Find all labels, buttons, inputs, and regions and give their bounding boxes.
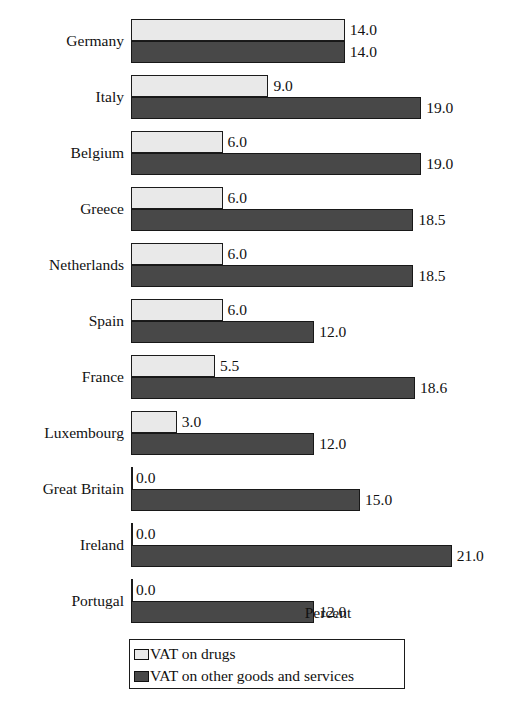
bar-belgium-vat-on-other-goods-and-services — [131, 153, 421, 175]
value-label-italy-vat-on-other-goods-and-services: 19.0 — [426, 97, 453, 119]
value-label-portugal-vat-on-drugs: 0.0 — [136, 579, 155, 601]
bar-group-belgium: Belgium6.019.0 — [0, 131, 528, 175]
category-label-portugal: Portugal — [0, 593, 124, 609]
bar-germany-vat-on-drugs — [131, 19, 345, 41]
bar-france-vat-on-drugs — [131, 355, 215, 377]
bar-group-greece: Greece6.018.5 — [0, 187, 528, 231]
value-label-greece-vat-on-drugs: 6.0 — [228, 187, 247, 209]
bar-france-vat-on-other-goods-and-services — [131, 377, 415, 399]
legend-label-vat-on-other-goods-and-services: VAT on other goods and services — [150, 668, 354, 684]
category-label-belgium: Belgium — [0, 145, 124, 161]
value-label-luxembourg-vat-on-other-goods-and-services: 12.0 — [319, 433, 346, 455]
value-label-belgium-vat-on-other-goods-and-services: 19.0 — [426, 153, 453, 175]
value-label-spain-vat-on-drugs: 6.0 — [228, 299, 247, 321]
category-label-germany: Germany — [0, 33, 124, 49]
bar-germany-vat-on-other-goods-and-services — [131, 41, 345, 63]
bar-belgium-vat-on-drugs — [131, 131, 223, 153]
value-label-france-vat-on-drugs: 5.5 — [220, 355, 239, 377]
bar-greece-vat-on-other-goods-and-services — [131, 209, 413, 231]
x-axis-title: Percent — [268, 604, 388, 622]
value-label-germany-vat-on-other-goods-and-services: 14.0 — [350, 41, 377, 63]
bar-italy-vat-on-other-goods-and-services — [131, 97, 421, 119]
legend-item-vat-on-drugs: VAT on drugs — [134, 643, 404, 665]
bar-italy-vat-on-drugs — [131, 75, 268, 97]
value-label-great-britain-vat-on-drugs: 0.0 — [136, 467, 155, 489]
vat-bar-chart: Germany14.014.0Italy9.019.0Belgium6.019.… — [0, 0, 528, 724]
bar-group-italy: Italy9.019.0 — [0, 75, 528, 119]
value-label-france-vat-on-other-goods-and-services: 18.6 — [420, 377, 447, 399]
value-label-ireland-vat-on-other-goods-and-services: 21.0 — [457, 545, 484, 567]
bar-netherlands-vat-on-other-goods-and-services — [131, 265, 413, 287]
bar-group-spain: Spain6.012.0 — [0, 299, 528, 343]
value-label-germany-vat-on-drugs: 14.0 — [350, 19, 377, 41]
value-label-great-britain-vat-on-other-goods-and-services: 15.0 — [365, 489, 392, 511]
category-label-italy: Italy — [0, 89, 124, 105]
value-label-italy-vat-on-drugs: 9.0 — [273, 75, 292, 97]
category-label-luxembourg: Luxembourg — [0, 425, 124, 441]
legend-label-vat-on-drugs: VAT on drugs — [150, 646, 236, 662]
value-label-spain-vat-on-other-goods-and-services: 12.0 — [319, 321, 346, 343]
bar-group-netherlands: Netherlands6.018.5 — [0, 243, 528, 287]
bar-spain-vat-on-other-goods-and-services — [131, 321, 314, 343]
bar-group-great-britain: Great Britain0.015.0 — [0, 467, 528, 511]
value-label-luxembourg-vat-on-drugs: 3.0 — [182, 411, 201, 433]
category-label-france: France — [0, 369, 124, 385]
chart-legend: VAT on drugs VAT on other goods and serv… — [129, 639, 405, 689]
legend-item-vat-on-other-goods-and-services: VAT on other goods and services — [134, 665, 404, 687]
plot-area: Germany14.014.0Italy9.019.0Belgium6.019.… — [0, 0, 528, 600]
bar-great-britain-vat-on-other-goods-and-services — [131, 489, 360, 511]
category-label-ireland: Ireland — [0, 537, 124, 553]
legend-swatch-dark-icon — [134, 671, 149, 682]
bar-group-germany: Germany14.014.0 — [0, 19, 528, 63]
bar-netherlands-vat-on-drugs — [131, 243, 223, 265]
value-label-netherlands-vat-on-other-goods-and-services: 18.5 — [418, 265, 445, 287]
bar-group-luxembourg: Luxembourg3.012.0 — [0, 411, 528, 455]
value-label-ireland-vat-on-drugs: 0.0 — [136, 523, 155, 545]
category-label-greece: Greece — [0, 201, 124, 217]
zero-tick-ireland-vat-on-drugs — [131, 523, 133, 545]
bar-group-ireland: Ireland0.021.0 — [0, 523, 528, 567]
zero-tick-portugal-vat-on-drugs — [131, 579, 133, 601]
category-label-netherlands: Netherlands — [0, 257, 124, 273]
legend-swatch-light-icon — [134, 649, 149, 660]
category-label-great-britain: Great Britain — [0, 481, 124, 497]
value-label-belgium-vat-on-drugs: 6.0 — [228, 131, 247, 153]
bar-luxembourg-vat-on-drugs — [131, 411, 177, 433]
bar-spain-vat-on-drugs — [131, 299, 223, 321]
value-label-greece-vat-on-other-goods-and-services: 18.5 — [418, 209, 445, 231]
bar-greece-vat-on-drugs — [131, 187, 223, 209]
zero-tick-great-britain-vat-on-drugs — [131, 467, 133, 489]
category-label-spain: Spain — [0, 313, 124, 329]
bar-luxembourg-vat-on-other-goods-and-services — [131, 433, 314, 455]
value-label-netherlands-vat-on-drugs: 6.0 — [228, 243, 247, 265]
bar-group-france: France5.518.6 — [0, 355, 528, 399]
bar-ireland-vat-on-other-goods-and-services — [131, 545, 452, 567]
bar-group-portugal: Portugal0.012.0 — [0, 579, 528, 623]
